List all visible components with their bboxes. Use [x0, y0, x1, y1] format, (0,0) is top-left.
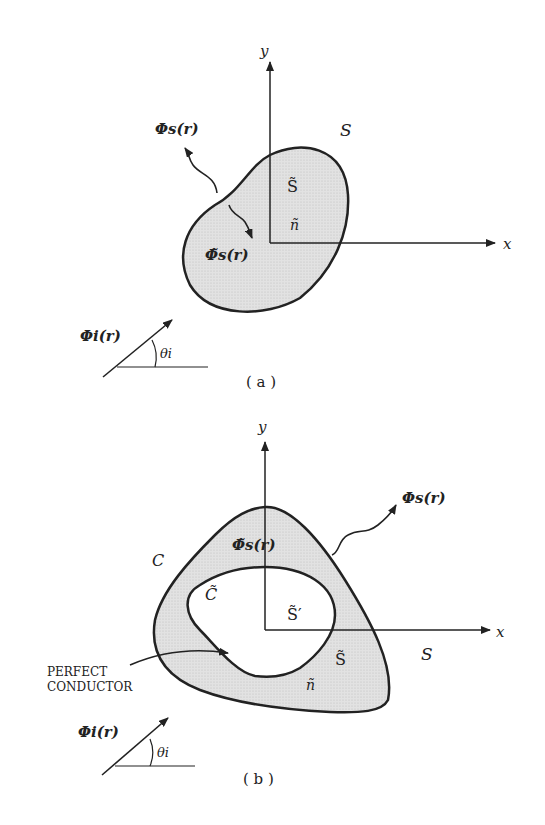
- scattered-outside-arrow: [185, 148, 217, 193]
- scattered-outside-label: Φs(r): [402, 489, 446, 507]
- angle-arc: [152, 340, 156, 367]
- scattered-inside-label: Φ̃s(r): [205, 246, 249, 264]
- normal-label: ñ: [306, 677, 315, 693]
- angle-label: θi: [157, 745, 169, 760]
- scattered-inside-label: Φ̃s(r): [232, 536, 276, 554]
- caption-b: ( b ): [243, 770, 274, 788]
- y-label: y: [257, 418, 267, 436]
- angle-arc: [150, 739, 153, 766]
- angle-label: θi: [160, 346, 172, 361]
- cavity-region-label: S̃′: [287, 605, 302, 624]
- outer-region-label: S: [421, 644, 433, 664]
- caption-a: ( a ): [246, 373, 276, 391]
- x-label: x: [503, 235, 512, 253]
- scattered-outside-arrow: [332, 505, 396, 555]
- scatterer-region: [183, 148, 348, 312]
- outer-contour-label: C: [152, 551, 164, 570]
- x-label: x: [496, 623, 505, 641]
- outer-region-label: S: [340, 120, 352, 140]
- incident-label: Φi(r): [80, 327, 121, 345]
- normal-label: ñ: [290, 217, 299, 233]
- conductor-label-line1: PERFECT: [47, 665, 107, 679]
- shell-region-label: S̃: [335, 650, 346, 669]
- y-label: y: [259, 42, 269, 60]
- inner-region-label: S̃: [287, 177, 298, 196]
- panel-b: y x S C C̃ S̃′ S̃ ñ Φ̃s(r) Φs(r) PERFECT…: [47, 418, 505, 788]
- inner-contour-label: C̃: [205, 585, 217, 604]
- conductor-label-line2: CONDUCTOR: [47, 680, 133, 694]
- panel-a: y x S S̃ ñ Φs(r) Φ̃s(r) Φi(r) θi ( a ): [80, 42, 512, 391]
- incident-label: Φi(r): [78, 723, 119, 741]
- scattered-outside-label: Φs(r): [155, 120, 199, 138]
